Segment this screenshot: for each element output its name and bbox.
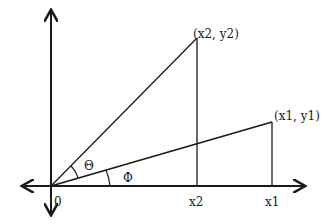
ray-to-point1 <box>51 122 272 186</box>
theta-arc <box>71 166 78 178</box>
ray-to-point2 <box>51 38 197 186</box>
phi-label: Φ <box>123 171 133 185</box>
point1-label: (x1, y1) <box>274 109 320 123</box>
point2-label: (x2, y2) <box>193 27 239 41</box>
x2-tick-label: x2 <box>189 195 203 209</box>
x1-tick-label: x1 <box>265 195 279 209</box>
origin-label: 0 <box>54 195 62 209</box>
theta-label: Θ <box>84 159 94 173</box>
angle-diagram: (x2, y2) (x1, y1) x2 x1 0 Θ Φ <box>0 0 335 224</box>
phi-arc <box>106 170 110 186</box>
